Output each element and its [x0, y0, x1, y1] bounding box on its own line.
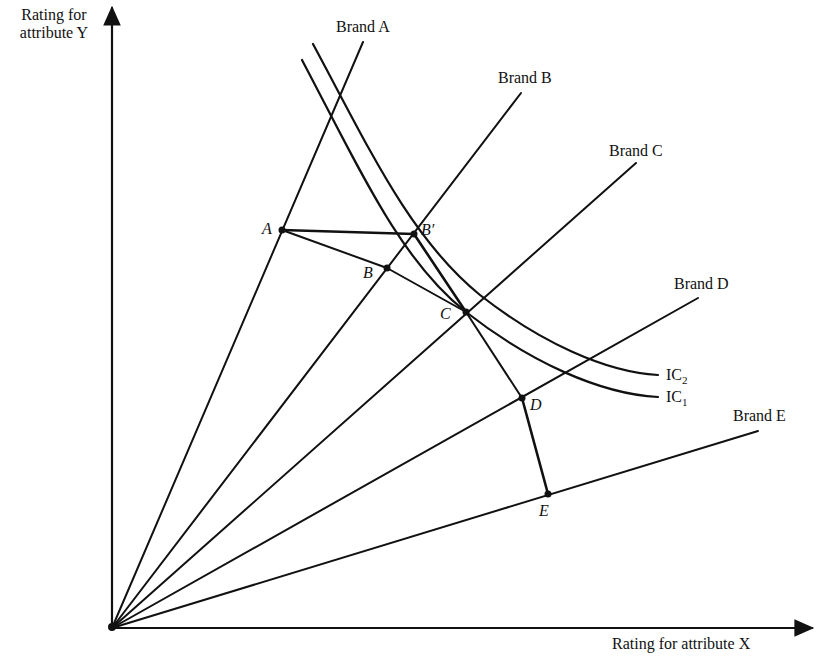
- point-d-label: D: [530, 396, 542, 414]
- diagram-svg: [0, 0, 819, 657]
- point-b-dot: [384, 265, 391, 272]
- point-d-dot: [519, 395, 526, 402]
- segment-a-b: [282, 230, 387, 268]
- brand-b-label: Brand B: [498, 69, 552, 87]
- ic1-label-base: IC: [666, 388, 682, 405]
- point-a-label: A: [262, 220, 272, 238]
- brand-d-label: Brand D: [674, 275, 729, 293]
- point-c-label: C: [440, 305, 451, 323]
- brand-a-label: Brand A: [336, 18, 390, 36]
- segment-bprime-c: [414, 234, 466, 312]
- ic1-curve: [302, 60, 658, 397]
- brand-d-ray: [112, 298, 698, 628]
- point-a-dot: [279, 227, 286, 234]
- ic2-label: IC2: [666, 366, 688, 389]
- point-bprime-dot: [411, 231, 418, 238]
- ic1-label: IC1: [666, 388, 688, 411]
- segment-c-d: [466, 312, 522, 398]
- ic2-label-sub: 2: [682, 374, 688, 386]
- y-axis-label: Rating for attribute Y: [6, 6, 102, 42]
- diagram-canvas: Rating for attribute Y Rating for attrib…: [0, 0, 819, 657]
- y-axis-label-line2: attribute Y: [6, 24, 102, 42]
- origin-dot: [108, 623, 116, 631]
- brand-b-ray: [112, 93, 521, 628]
- point-e-dot: [545, 491, 552, 498]
- x-axis-label: Rating for attribute X: [612, 635, 750, 653]
- point-e-label: E: [539, 502, 549, 520]
- ic2-label-base: IC: [666, 366, 682, 383]
- brand-a-ray: [112, 42, 363, 628]
- brand-c-label: Brand C: [609, 142, 663, 160]
- brand-e-ray: [112, 431, 758, 628]
- point-b-label: B: [363, 264, 373, 282]
- y-axis-label-line1: Rating for: [6, 6, 102, 24]
- brand-e-label: Brand E: [733, 407, 786, 425]
- point-c-dot: [463, 309, 470, 316]
- ic1-label-sub: 1: [682, 396, 688, 408]
- point-bprime-label: B′: [421, 221, 434, 239]
